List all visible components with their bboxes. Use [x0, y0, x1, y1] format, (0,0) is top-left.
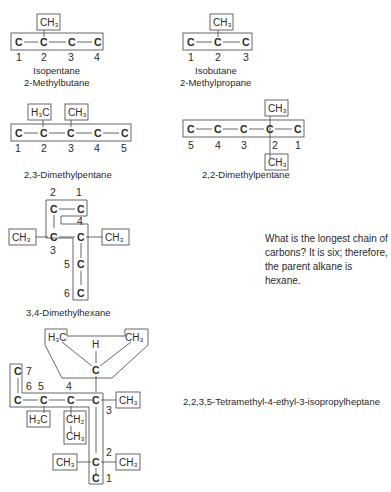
chain-number: 4	[94, 142, 100, 154]
carbon-atom: C	[242, 36, 250, 48]
group-ch3: CH₃	[125, 332, 144, 343]
carbon-atom: C	[50, 231, 58, 243]
group-h3c: H₃C	[29, 414, 48, 425]
carbon-atom: C	[77, 287, 85, 299]
chain-number: 3	[68, 142, 74, 154]
chain-number: 3	[68, 51, 74, 63]
substituent-ch3: CH₃	[268, 157, 287, 168]
dimethylpentane-22-structure: CH₃ C C C C C 5 4 3 2 1 CH₃ 2,2-Dimethyl…	[183, 100, 304, 180]
dimethylhexane-34-structure: 2 1 C C 4 CH₃ C C CH₃ 3 5 C 6 C 3,4-Dime…	[9, 186, 129, 318]
isobutane-structure: CH₃ C C C 1 2 3 Isobutane 2-Methylpropan…	[180, 14, 252, 88]
carbon-atom: C	[214, 123, 222, 135]
substituent-ch3: CH₃	[268, 103, 287, 114]
chain-number: 1	[15, 142, 21, 154]
carbon-atom: C	[14, 365, 22, 377]
common-name: Isobutane	[195, 65, 237, 76]
carbon-atom: C	[92, 394, 100, 406]
chain-number: 3	[106, 404, 112, 416]
carbon-atom: C	[92, 456, 100, 468]
chain-number: 1	[188, 51, 194, 63]
carbon-atom: C	[77, 258, 85, 270]
carbon-atom: C	[15, 36, 23, 48]
carbon-atom: C	[94, 36, 102, 48]
common-name: Isopentane	[33, 65, 80, 76]
substituent-ch3: CH₃	[68, 107, 87, 118]
iupac-name: 2,2,3,5-Tetramethyl-4-ethyl-3-isopropylh…	[183, 396, 380, 407]
carbon-atom: C	[15, 127, 23, 139]
chain-number: 3	[241, 139, 247, 151]
carbon-atom: C	[77, 203, 85, 215]
substituent-h3c: H₃C	[31, 107, 50, 118]
iupac-name: 2-Methylbutane	[24, 77, 89, 88]
group-h: H	[92, 339, 99, 350]
chain-number: 7	[26, 365, 32, 377]
carbon-atom: C	[214, 36, 222, 48]
chain-number: 2	[106, 446, 112, 458]
iupac-name: 3,4-Dimethylhexane	[26, 307, 111, 318]
chain-number: 6	[26, 380, 32, 392]
chain-number: 5	[188, 139, 194, 151]
group-ch3: CH₃	[66, 431, 85, 442]
chain-number: 6	[64, 287, 70, 299]
chain-number: 3	[243, 51, 249, 63]
chain-number: 1	[106, 472, 112, 484]
carbon-atom: C	[68, 36, 76, 48]
chain-number: 1	[295, 139, 301, 151]
carbon-atom: C	[77, 231, 85, 243]
carbon-atom: C	[240, 123, 248, 135]
substituent-ch3: CH₃	[12, 232, 31, 243]
carbon-atom: C	[50, 203, 58, 215]
iupac-name: 2,2-Dimethylpentane	[202, 169, 290, 180]
carbon-atom: C	[67, 394, 75, 406]
carbon-atom: C	[187, 123, 195, 135]
group-ch3: CH₃	[119, 395, 138, 406]
substituent-ch3: CH₃	[105, 232, 124, 243]
longest-chain-note: What is the longest chain of carbons? It…	[265, 232, 390, 288]
carbon-atom: C	[92, 472, 100, 484]
chain-number: 5	[121, 142, 127, 154]
chain-number: 2	[215, 51, 221, 63]
carbon-atom: C	[40, 394, 48, 406]
carbon-atom: C	[67, 127, 75, 139]
group-ch3: CH₃	[119, 457, 138, 468]
iupac-name: 2,3-Dimethylpentane	[24, 169, 112, 180]
heptane-structure: H₃C CH₃ H C C 7 6 5 4 C C C C CH₃ 3 H₃C …	[10, 329, 380, 484]
chain-number: 5	[64, 258, 70, 270]
iupac-name: 2-Methylpropane	[180, 77, 251, 88]
chain-number: 2	[41, 51, 47, 63]
substituent-ch3: CH₃	[40, 17, 59, 28]
chain-number: 3	[50, 244, 56, 256]
group-ch2: CH₂	[66, 414, 84, 425]
chain-number: 2	[41, 142, 47, 154]
chain-number: 2	[50, 186, 56, 198]
carbon-atom: C	[94, 127, 102, 139]
chain-number: 4	[215, 139, 221, 151]
carbon-atom: C	[294, 123, 302, 135]
carbon-atom: C	[40, 36, 48, 48]
dimethylpentane-23-structure: H₃C CH₃ C C C C C 1 2 3 4 5 2,3-Dimethyl…	[11, 104, 131, 180]
chain-number: 4	[66, 380, 72, 392]
chain-number: 5	[38, 380, 44, 392]
carbon-atom: C	[92, 364, 100, 376]
substituent-ch3: CH₃	[213, 17, 232, 28]
carbon-atom: C	[40, 127, 48, 139]
chain-number: 1	[76, 186, 82, 198]
parent-chain-box	[11, 33, 103, 50]
carbon-atom: C	[121, 127, 129, 139]
group-h3c: H₃C	[48, 332, 67, 343]
group-ch3: CH₃	[56, 457, 75, 468]
carbon-atom: C	[266, 123, 274, 135]
chain-number: 2	[272, 139, 278, 151]
carbon-atom: C	[14, 394, 22, 406]
chain-number: 4	[77, 215, 83, 227]
chain-number: 4	[94, 51, 100, 63]
carbon-atom: C	[187, 36, 195, 48]
chain-number: 1	[16, 51, 22, 63]
isopentane-structure: CH₃ C C C C 1 2 3 4 Isopentane 2-Methylb…	[11, 14, 103, 88]
